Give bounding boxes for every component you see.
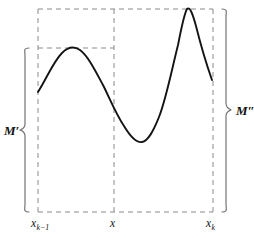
axis-tick-label-x-k: xk [206,218,215,230]
axis-tick-subscript-k: k [212,223,215,232]
figure-canvas [0,0,254,238]
axis-tick-base-x-k-minus-1: x [31,217,36,229]
axis-tick-subscript-k-minus-1: k−1 [37,223,50,232]
label-m-double-prime: M″ [236,104,254,117]
oscillation-diagram-figure: M′ M″ xk−1 x xk [0,0,254,238]
axis-tick-base-x-k: x [206,217,211,229]
label-m-prime: M′ [4,124,19,137]
axis-tick-label-x: x [110,218,115,230]
brace-left-m-prime [20,48,29,212]
guide-rectangles-group [38,9,213,212]
axis-tick-label-x-k-minus-1: xk−1 [31,218,49,230]
function-curve [38,8,212,142]
brace-right-m-double-prime [222,9,231,212]
